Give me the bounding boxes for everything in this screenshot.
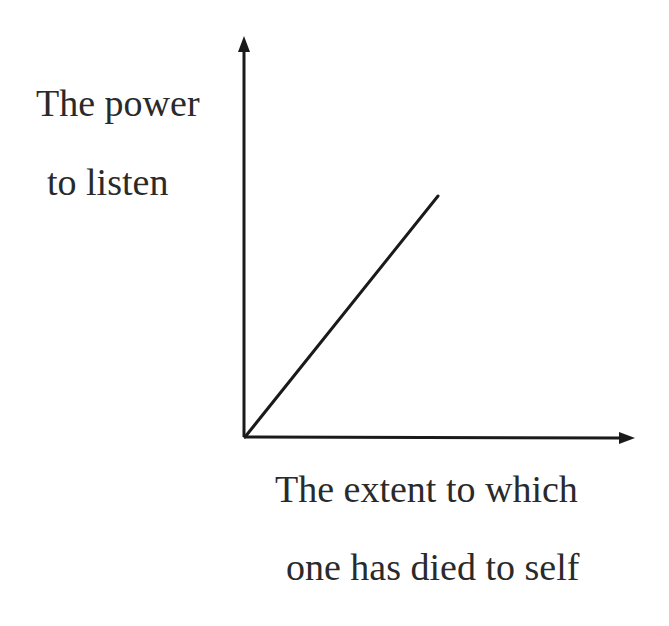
y-axis-arrow-icon [238, 36, 250, 52]
data-line [245, 196, 438, 437]
y-axis-label-line-2: to listen [47, 163, 168, 201]
x-axis-arrow-icon [619, 432, 635, 444]
y-axis-label-line-1: The power [36, 84, 200, 122]
x-axis-label-line-1: The extent to which [275, 470, 578, 508]
x-axis [244, 437, 620, 438]
x-axis-label-line-2: one has died to self [286, 548, 579, 586]
